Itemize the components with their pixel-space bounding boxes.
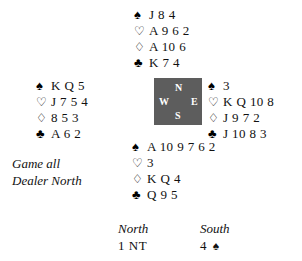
auction-bid-north: 1 NT xyxy=(118,237,148,254)
north-hearts-row: ♡ A 9 6 2 xyxy=(134,23,190,39)
spade-icon: ♠ xyxy=(208,78,221,94)
dealer-label: Dealer North xyxy=(12,172,82,189)
north-hand: ♠ J 8 4 ♡ A 9 6 2 ♢ A 10 6 ♣ K 7 4 xyxy=(134,7,190,71)
west-clubs-row: ♣ A 6 2 xyxy=(36,126,88,142)
south-diamonds-cards: K Q 4 xyxy=(145,171,181,187)
auction-bid-south-level: 4 xyxy=(200,238,207,253)
spade-icon: ♠ xyxy=(132,139,145,155)
heart-icon: ♡ xyxy=(36,94,49,110)
spade-icon: ♠ xyxy=(134,7,147,23)
west-hearts-row: ♡ J 7 5 4 xyxy=(36,94,88,110)
north-spades-row: ♠ J 8 4 xyxy=(134,7,190,23)
diamond-icon: ♢ xyxy=(134,39,147,55)
south-spades-cards: A 10 9 7 6 2 xyxy=(145,139,216,155)
compass-south-label: S xyxy=(175,111,181,121)
east-diamonds-cards: J 9 7 2 xyxy=(221,110,260,126)
east-spades-row: ♠ 3 xyxy=(208,78,274,94)
vulnerability-label: Game all xyxy=(12,155,82,172)
compass-box: N W E S xyxy=(154,78,202,125)
west-diamonds-cards: 8 5 3 xyxy=(49,110,79,126)
south-clubs-row: ♣ Q 9 5 xyxy=(132,187,216,203)
south-hearts-row: ♡ 3 xyxy=(132,155,216,171)
north-hearts-cards: A 9 6 2 xyxy=(147,23,190,39)
diamond-icon: ♢ xyxy=(208,110,221,126)
west-diamonds-row: ♢ 8 5 3 xyxy=(36,110,88,126)
club-icon: ♣ xyxy=(36,126,49,142)
north-clubs-row: ♣ K 7 4 xyxy=(134,55,190,71)
west-spades-row: ♠ K Q 5 xyxy=(36,78,88,94)
auction-bid-north-denomination: NT xyxy=(129,238,147,253)
west-hand: ♠ K Q 5 ♡ J 7 5 4 ♢ 8 5 3 ♣ A 6 2 xyxy=(36,78,88,142)
north-diamonds-cards: A 10 6 xyxy=(147,39,186,55)
diamond-icon: ♢ xyxy=(36,110,49,126)
south-spades-row: ♠ A 10 9 7 6 2 xyxy=(132,139,216,155)
auction-seat-south: South xyxy=(200,220,230,237)
auction-column-south: South 4 ♠ xyxy=(200,220,230,255)
north-spades-cards: J 8 4 xyxy=(147,7,176,23)
heart-icon: ♡ xyxy=(208,94,221,110)
east-clubs-cards: J 10 8 3 xyxy=(221,126,267,142)
south-diamonds-row: ♢ K Q 4 xyxy=(132,171,216,187)
heart-icon: ♡ xyxy=(132,155,145,171)
east-clubs-row: ♣ J 10 8 3 xyxy=(208,126,274,142)
compass-east-label: E xyxy=(191,97,198,107)
bridge-deal-diagram: ♠ J 8 4 ♡ A 9 6 2 ♢ A 10 6 ♣ K 7 4 ♠ K Q… xyxy=(0,0,302,261)
east-hand: ♠ 3 ♡ K Q 10 8 ♢ J 9 7 2 ♣ J 10 8 3 xyxy=(208,78,274,142)
club-icon: ♣ xyxy=(132,187,145,203)
west-spades-cards: K Q 5 xyxy=(49,78,85,94)
north-diamonds-row: ♢ A 10 6 xyxy=(134,39,190,55)
south-hand: ♠ A 10 9 7 6 2 ♡ 3 ♢ K Q 4 ♣ Q 9 5 xyxy=(132,139,216,203)
club-icon: ♣ xyxy=(134,55,147,71)
east-spades-cards: 3 xyxy=(221,78,230,94)
west-clubs-cards: A 6 2 xyxy=(49,126,81,142)
south-hearts-cards: 3 xyxy=(145,155,154,171)
deal-conditions: Game all Dealer North xyxy=(12,155,82,189)
diamond-icon: ♢ xyxy=(132,171,145,187)
auction-column-north: North 1 NT xyxy=(118,220,148,254)
auction-bid-south: 4 ♠ xyxy=(200,237,230,255)
auction-bid-north-level: 1 xyxy=(118,238,125,253)
south-clubs-cards: Q 9 5 xyxy=(145,187,178,203)
east-diamonds-row: ♢ J 9 7 2 xyxy=(208,110,274,126)
west-hearts-cards: J 7 5 4 xyxy=(49,94,88,110)
spade-icon: ♠ xyxy=(36,78,49,94)
spade-icon: ♠ xyxy=(211,239,220,253)
heart-icon: ♡ xyxy=(134,23,147,39)
east-hearts-row: ♡ K Q 10 8 xyxy=(208,94,274,110)
north-clubs-cards: K 7 4 xyxy=(147,55,180,71)
compass-north-label: N xyxy=(175,83,182,93)
compass-west-label: W xyxy=(159,97,169,107)
auction-seat-north: North xyxy=(118,220,148,237)
east-hearts-cards: K Q 10 8 xyxy=(221,94,274,110)
